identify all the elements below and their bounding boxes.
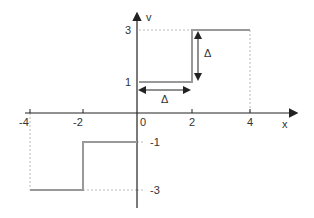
- horizontal-delta-label: Δ: [161, 93, 169, 105]
- y-axis-label: v: [146, 11, 152, 23]
- step-function-diagram: v x -4 -2 0 2 4 3 1 -1 -3 Δ Δ: [0, 0, 314, 218]
- x-tick-label: -2: [73, 116, 83, 128]
- x-tick-label: 4: [247, 116, 253, 128]
- y-tick-label: -3: [150, 184, 160, 196]
- y-tick-label: -1: [150, 136, 160, 148]
- y-tick-label: 3: [125, 24, 131, 36]
- negative-step-curve: [30, 142, 137, 190]
- guide-lines: [30, 30, 250, 190]
- x-tick-label: 0: [140, 116, 146, 128]
- y-tick-label: 1: [125, 76, 131, 88]
- vertical-delta-label: Δ: [204, 47, 212, 59]
- x-axis: [25, 109, 296, 113]
- x-tick-label: 2: [189, 116, 195, 128]
- x-axis-label: x: [282, 118, 288, 130]
- positive-step-curve: [139, 30, 250, 82]
- x-tick-label: -4: [19, 116, 29, 128]
